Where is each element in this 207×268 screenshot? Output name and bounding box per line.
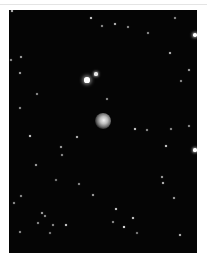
star [136, 232, 138, 234]
star [134, 128, 136, 130]
top-border-line [0, 4, 207, 5]
star [20, 56, 22, 58]
star [146, 129, 148, 131]
star [115, 208, 117, 210]
star [19, 107, 21, 109]
star [127, 26, 129, 28]
star [162, 182, 164, 184]
star [65, 224, 67, 226]
star [92, 194, 94, 196]
star [188, 125, 190, 127]
star [174, 17, 176, 19]
star [76, 136, 78, 138]
star [19, 231, 21, 233]
star [36, 93, 38, 95]
star [20, 195, 22, 197]
star [19, 72, 21, 74]
star [193, 33, 197, 37]
star [61, 154, 63, 156]
star [114, 23, 116, 25]
star [11, 10, 13, 12]
star [29, 135, 31, 137]
star [90, 17, 92, 19]
central-nebula [95, 113, 111, 129]
star-field-image [9, 10, 197, 253]
star [60, 146, 62, 148]
star [94, 72, 97, 75]
star [13, 202, 15, 204]
star [37, 222, 39, 224]
star [55, 179, 57, 181]
star [132, 217, 134, 219]
star [180, 80, 182, 82]
star [169, 52, 171, 54]
star [41, 212, 43, 214]
star [165, 145, 167, 147]
star [193, 148, 196, 151]
star [52, 224, 54, 226]
star [170, 128, 172, 130]
star [179, 234, 181, 236]
star [173, 197, 175, 199]
star [112, 221, 114, 223]
star [161, 176, 163, 178]
star [49, 232, 51, 234]
star [78, 183, 80, 185]
star [106, 98, 108, 100]
star [123, 226, 126, 229]
star [44, 215, 46, 217]
star [188, 69, 190, 71]
star [35, 164, 37, 166]
star [101, 25, 103, 27]
star [84, 77, 89, 82]
star [147, 32, 149, 34]
star [10, 59, 12, 61]
